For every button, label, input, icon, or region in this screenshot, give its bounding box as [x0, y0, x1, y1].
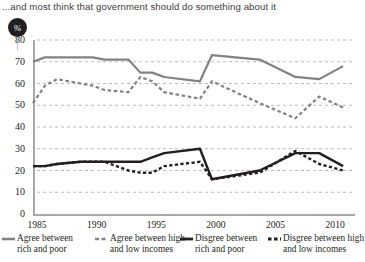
headline-text: ...and most think that government should…: [2, 0, 362, 13]
legend-label: Disgree between high and low incomes: [283, 233, 364, 254]
legend-label: Agree between rich and poor: [17, 233, 73, 254]
legend-label-line2: rich and poor: [17, 244, 67, 254]
legend-item-agree-rich-poor[interactable]: Agree between rich and poor: [2, 233, 94, 254]
legend-label-line1: Agree between high: [110, 233, 185, 243]
x-tick-2000: 2000: [206, 219, 225, 230]
percent-badge: %: [8, 18, 27, 37]
x-tick-2010: 2010: [326, 219, 345, 230]
legend-item-disagree-high-low[interactable]: Disgree between high and low incomes: [268, 233, 365, 254]
legend-label: Disgree between rich and poor: [195, 233, 257, 254]
y-tick-0: 0: [3, 208, 25, 219]
y-tick-70: 70: [3, 56, 25, 67]
x-tick-1985: 1985: [27, 219, 46, 230]
series-line-0: [33, 55, 343, 81]
y-tick-50: 50: [3, 99, 25, 110]
legend-label-line2: rich and poor: [195, 244, 245, 254]
y-tick-20: 20: [3, 165, 25, 176]
chart-plot-area: [33, 40, 355, 214]
legend-label-line1: Disgree between: [195, 233, 257, 243]
y-tick-60: 60: [3, 78, 25, 89]
x-tick-1990: 1990: [87, 219, 106, 230]
chart-legend: Agree between rich and poor Agree betwee…: [0, 233, 365, 262]
legend-item-agree-high-low[interactable]: Agree between high and low incomes: [95, 233, 187, 254]
x-tick-2005: 2005: [266, 219, 285, 230]
legend-item-disagree-rich-poor[interactable]: Disgree between rich and poor: [180, 233, 272, 254]
legend-swatch-dashed-black-icon: [268, 234, 281, 244]
legend-label-line1: Disgree between high: [283, 233, 364, 243]
x-tick-1995: 1995: [147, 219, 166, 230]
legend-swatch-dashed-gray-icon: [95, 234, 108, 244]
y-tick-40: 40: [3, 121, 25, 132]
y-tick-10: 10: [3, 186, 25, 197]
legend-swatch-solid-black-icon: [180, 234, 193, 244]
percent-badge-stem: [17, 36, 18, 50]
chart-canvas: [33, 40, 355, 216]
legend-label: Agree between high and low incomes: [110, 233, 185, 254]
series-line-3: [33, 151, 343, 179]
y-tick-30: 30: [3, 143, 25, 154]
legend-label-line2: and low incomes: [110, 244, 173, 254]
legend-label-line1: Agree between: [17, 233, 73, 243]
legend-label-line2: and low incomes: [283, 244, 346, 254]
legend-swatch-solid-gray-icon: [2, 234, 15, 244]
